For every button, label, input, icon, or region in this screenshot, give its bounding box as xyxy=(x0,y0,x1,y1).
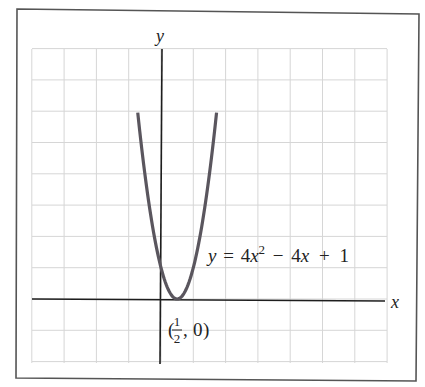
annotation-frac-numerator: 1 xyxy=(174,314,181,329)
equation-label: y = 4x2 − 4x + 1 xyxy=(206,237,349,266)
parabola-curve xyxy=(138,113,217,299)
annotation-close-paren: ) xyxy=(203,319,209,341)
y-axis xyxy=(160,49,162,364)
annotation-frac-denominator: 2 xyxy=(174,331,181,346)
annotation-comma: , xyxy=(183,319,188,340)
annotation-y-value: 0 xyxy=(193,319,203,340)
grid xyxy=(32,49,387,363)
graph-figure: y x y = 4x2 − 4x + 1 ( 1 2 , 0 ) xyxy=(0,0,425,387)
figure-frame xyxy=(16,9,419,381)
y-axis-label: y xyxy=(154,26,164,46)
x-axis-label: x xyxy=(390,292,399,312)
